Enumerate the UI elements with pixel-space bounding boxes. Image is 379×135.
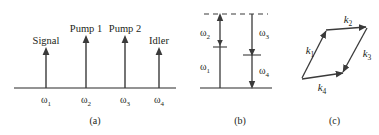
axis-tick-omega-2-symbol: ω bbox=[81, 94, 88, 105]
axis-tick-omega-4-sub: 4 bbox=[161, 100, 165, 108]
spectral-line-signal bbox=[43, 47, 50, 88]
level-label-omega-4-symbol: ω bbox=[259, 65, 266, 76]
panel-c-caption: (c) bbox=[290, 115, 379, 126]
panel-b-energy-level-diagram: ω2 ω1 ω3 ω4 (b) bbox=[190, 0, 290, 135]
wave-vector-label-k2-sub: 2 bbox=[349, 19, 353, 28]
wave-vector-label-k4: k4 bbox=[318, 82, 327, 96]
level-label-omega-3-sub: 3 bbox=[266, 33, 270, 41]
axis-tick-omega-3-symbol: ω bbox=[120, 94, 127, 105]
axis-tick-omega-4-symbol: ω bbox=[154, 94, 161, 105]
axis-tick-omega-3: ω3 bbox=[120, 95, 130, 108]
transition-arrow-omega-1-omega-2-up bbox=[213, 13, 227, 88]
level-label-omega-2-sub: 2 bbox=[207, 33, 211, 41]
spectral-label-pump-2: Pump 2 bbox=[109, 24, 141, 35]
spectral-label-pump-1: Pump 1 bbox=[70, 24, 102, 35]
wave-vector-label-k1-sub: 1 bbox=[311, 50, 315, 59]
spectral-label-idler: Idler bbox=[149, 36, 169, 47]
axis-tick-omega-3-sub: 3 bbox=[127, 100, 131, 108]
axis-tick-omega-1-sub: 1 bbox=[48, 100, 52, 108]
axis-tick-omega-2: ω2 bbox=[81, 95, 91, 108]
panel-a-frequency-spectrum: Signal Pump 1 Pump 2 Idler ω1 ω2 ω3 ω4 (… bbox=[0, 0, 190, 135]
wave-vector-label-k3: k3 bbox=[363, 48, 372, 62]
axis-tick-omega-1-symbol: ω bbox=[41, 94, 48, 105]
panel-a-caption: (a) bbox=[0, 115, 190, 126]
level-label-omega-4: ω4 bbox=[259, 66, 269, 79]
figure-container: Signal Pump 1 Pump 2 Idler ω1 ω2 ω3 ω4 (… bbox=[0, 0, 379, 135]
spectral-label-signal: Signal bbox=[33, 36, 60, 47]
wave-vector-label-k1: k1 bbox=[306, 45, 315, 59]
level-label-omega-1: ω1 bbox=[200, 62, 210, 75]
wave-vector-label-k4-sub: 4 bbox=[323, 87, 327, 96]
level-label-omega-1-symbol: ω bbox=[200, 61, 207, 72]
axis-tick-omega-2-sub: 2 bbox=[88, 100, 92, 108]
spectral-line-pump-2 bbox=[122, 35, 129, 88]
spectral-line-idler bbox=[156, 47, 163, 88]
level-label-omega-4-sub: 4 bbox=[266, 71, 270, 79]
level-label-omega-3: ω3 bbox=[259, 28, 269, 41]
wave-vector-label-k3-sub: 3 bbox=[368, 53, 372, 62]
spectral-line-pump-1 bbox=[83, 35, 90, 88]
level-label-omega-2: ω2 bbox=[200, 28, 210, 41]
wave-vector-label-k2: k2 bbox=[344, 14, 353, 28]
axis-tick-omega-1: ω1 bbox=[41, 95, 51, 108]
panel-c-wave-vector-diagram: k1 k2 k3 k4 (c) bbox=[290, 0, 379, 135]
level-label-omega-3-symbol: ω bbox=[259, 27, 266, 38]
panel-b-caption: (b) bbox=[190, 115, 290, 126]
axis-tick-omega-4: ω4 bbox=[154, 95, 164, 108]
level-label-omega-1-sub: 1 bbox=[207, 67, 211, 75]
level-label-omega-2-symbol: ω bbox=[200, 27, 207, 38]
wave-vector-k4-arrow bbox=[302, 73, 343, 79]
